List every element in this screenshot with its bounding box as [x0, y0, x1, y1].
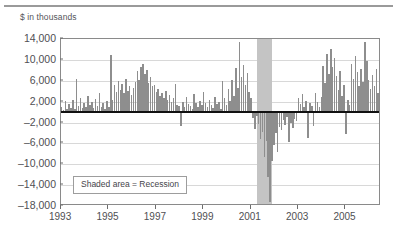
gridline: [61, 123, 379, 124]
x-axis-tick-mark: [297, 205, 298, 209]
y-axis-tick-label: 2,000: [30, 95, 56, 107]
y-axis-tick-mark: [60, 38, 63, 39]
bar: [377, 93, 379, 112]
y-axis-tick-mark: [60, 142, 63, 143]
y-axis-tick-label: –10,000: [18, 157, 56, 169]
bar: [343, 85, 345, 112]
y-axis-tick-mark: [60, 100, 63, 101]
y-axis-tick-mark: [60, 121, 63, 122]
x-axis-tick-label: 2005: [333, 211, 355, 222]
zero-baseline: [61, 111, 379, 113]
x-axis-tick-mark: [60, 205, 61, 209]
x-axis-tick-mark: [202, 205, 203, 209]
x-axis-tick-mark: [344, 205, 345, 209]
y-axis-tick-mark: [60, 79, 63, 80]
bar: [180, 112, 182, 126]
recession-legend-label: Shaded area = Recession: [81, 179, 179, 189]
y-axis-tick-label: 14,000: [24, 32, 56, 44]
y-axis-tick-label: –18,000: [18, 199, 56, 211]
gridline: [61, 143, 379, 144]
y-axis-labels: 14,00010,0006,0002,000–2,000–6,000–10,00…: [0, 0, 56, 239]
x-axis-tick-mark: [155, 205, 156, 209]
top-divider-rule: [4, 5, 393, 7]
y-axis-tick-mark: [60, 58, 63, 59]
x-axis-tick-label: 2001: [239, 211, 261, 222]
bar: [307, 112, 309, 138]
y-axis-tick-label: 10,000: [24, 53, 56, 65]
x-axis-tick-label: 1999: [191, 211, 213, 222]
bar: [313, 112, 315, 126]
x-axis-tick-mark: [107, 205, 108, 209]
x-axis-tick-label: 2003: [286, 211, 308, 222]
bar: [345, 112, 347, 134]
y-axis-tick-label: –6,000: [24, 136, 56, 148]
x-axis-tick-label: 1993: [49, 211, 71, 222]
x-axis-tick-label: 1995: [96, 211, 118, 222]
y-axis-tick-mark: [60, 184, 63, 185]
y-axis-tick-label: –14,000: [18, 178, 56, 190]
y-axis-tick-label: 6,000: [30, 74, 56, 86]
y-axis-tick-mark: [60, 163, 63, 164]
y-axis-tick-label: –2,000: [24, 116, 56, 128]
x-axis-tick-label: 1997: [144, 211, 166, 222]
gridline: [61, 164, 379, 165]
x-axis-tick-mark: [250, 205, 251, 209]
recession-legend-box: Shaded area = Recession: [73, 176, 187, 194]
bar: [296, 112, 298, 121]
